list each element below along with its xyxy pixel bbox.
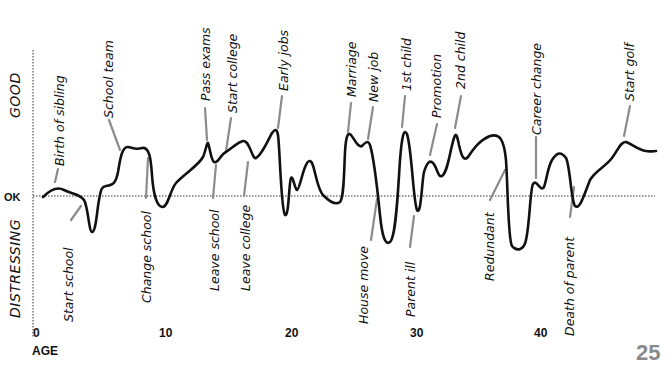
event-second-child: 2nd child xyxy=(453,31,468,89)
event-redundant: Redundant xyxy=(482,211,497,281)
event-marriage: Marriage xyxy=(344,41,359,97)
event-career-change: Career change xyxy=(529,43,544,135)
good-label: GOOD xyxy=(7,72,23,118)
event-early-jobs: Early jobs xyxy=(276,29,291,91)
ok-label: OK xyxy=(4,191,21,203)
event-birth-of-sibling: Birth of sibling xyxy=(52,75,67,166)
event-first-child: 1st child xyxy=(399,38,414,91)
events-below: Start school Change school Leave school … xyxy=(61,205,577,336)
life-curve xyxy=(43,130,656,249)
age-axis-label: AGE xyxy=(32,344,58,358)
distressing-label: DISTRESSING xyxy=(7,219,23,318)
event-parent-ill: Parent ill xyxy=(403,261,418,317)
event-start-golf: Start golf xyxy=(622,41,637,101)
x-tick-20: 20 xyxy=(285,326,299,340)
event-promotion: Promotion xyxy=(429,54,444,118)
event-start-college: Start college xyxy=(225,33,240,113)
event-change-school: Change school xyxy=(139,211,154,303)
event-leave-college: Leave college xyxy=(238,205,253,291)
event-school-team: School team xyxy=(101,40,116,118)
x-tick-40: 40 xyxy=(534,326,548,340)
event-new-job: New job xyxy=(366,52,381,102)
x-tick-0: 0 xyxy=(33,326,40,340)
event-pass-exams: Pass exams xyxy=(198,27,213,101)
life-line-chart: GOOD OK DISTRESSING 0 10 20 30 40 AGE 25… xyxy=(0,0,668,367)
x-tick-10: 10 xyxy=(159,326,173,340)
x-tick-30: 30 xyxy=(410,326,424,340)
event-start-school: Start school xyxy=(61,247,76,322)
event-death-of-parent: Death of parent xyxy=(562,236,577,336)
page-number: 25 xyxy=(636,340,660,365)
event-house-move: House move xyxy=(356,246,371,324)
event-leave-school: Leave school xyxy=(207,209,222,291)
